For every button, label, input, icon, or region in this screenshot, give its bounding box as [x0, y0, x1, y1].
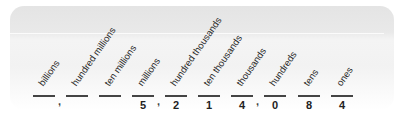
comma-separator: ,	[256, 95, 259, 107]
column-tens: tens 8	[296, 0, 330, 124]
digit: 1	[198, 99, 220, 111]
digit-blank	[331, 95, 353, 97]
digit-blank	[132, 95, 154, 97]
digit-blank	[33, 95, 55, 97]
digit-blank	[264, 95, 286, 97]
column-hundred-millions: hundred millions	[64, 0, 98, 124]
digit: 0	[264, 99, 286, 111]
place-label: ones	[334, 65, 355, 88]
digit: 8	[298, 99, 320, 111]
column-hundred-thousands: hundred thousands 2	[163, 0, 197, 124]
digit: 4	[231, 99, 253, 111]
digit-blank	[165, 95, 187, 97]
comma-separator: ,	[58, 95, 61, 107]
place-label: tens	[301, 67, 320, 88]
column-ones: ones 4	[329, 0, 363, 124]
place-label: millions	[135, 56, 162, 88]
digit-blank	[198, 95, 220, 97]
digit-blank	[298, 95, 320, 97]
place-label: billions	[36, 58, 62, 88]
digit-blank	[231, 95, 253, 97]
digit: 4	[331, 99, 353, 111]
digit: 5	[132, 99, 154, 111]
digit-blank	[99, 95, 121, 97]
column-hundreds: hundreds 0	[262, 0, 296, 124]
comma-separator: ,	[157, 95, 160, 107]
place-label: hundreds	[267, 49, 299, 88]
digit-blank	[66, 95, 88, 97]
column-ten-millions: ten millions	[97, 0, 131, 124]
digit: 2	[165, 99, 187, 111]
column-ten-thousands: ten thousands 1	[196, 0, 230, 124]
